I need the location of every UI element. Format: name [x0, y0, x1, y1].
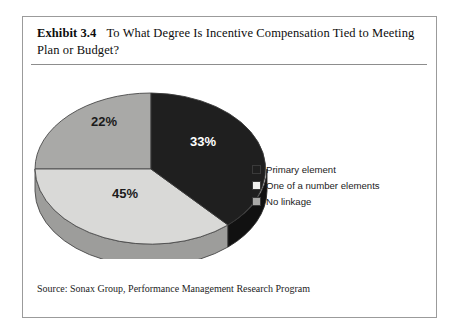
legend-swatch-one-of-number: [252, 181, 261, 190]
legend-item-primary-element: Primary element: [252, 162, 417, 177]
legend-label-primary-element: Primary element: [266, 164, 336, 175]
page-title: Exhibit 3.4To What Degree Is Incentive C…: [37, 25, 426, 59]
legend-swatch-primary-element: [252, 165, 261, 174]
pie-label-one-of-number: 45%: [112, 186, 138, 201]
legend-label-no-linkage: No linkage: [266, 196, 311, 207]
pie-label-primary-element: 33%: [190, 134, 216, 149]
title-divider: [31, 64, 427, 65]
exhibit-label: Exhibit 3.4: [37, 26, 106, 40]
pie-slice-no-linkage: [35, 93, 151, 169]
pie-chart: 33% 45% 22%: [31, 73, 271, 259]
pie-label-no-linkage: 22%: [91, 114, 117, 129]
legend-label-one-of-number: One of a number elements: [266, 180, 380, 191]
legend-swatch-no-linkage: [252, 197, 261, 206]
chart-legend: Primary element One of a number elements…: [252, 162, 417, 210]
legend-item-one-of-number: One of a number elements: [252, 178, 417, 193]
source-note: Source: Sonax Group, Performance Managem…: [37, 283, 310, 294]
legend-item-no-linkage: No linkage: [252, 194, 417, 209]
pie-top-face: [35, 93, 266, 244]
exhibit-frame: Exhibit 3.4To What Degree Is Incentive C…: [22, 16, 437, 318]
exhibit-title-block: Exhibit 3.4To What Degree Is Incentive C…: [37, 25, 426, 59]
chart-area: 33% 45% 22% Primary element One of a num…: [23, 73, 436, 263]
